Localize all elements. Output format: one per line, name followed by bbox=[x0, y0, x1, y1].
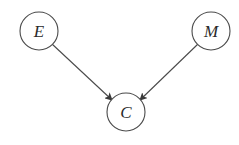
edge-e-to-c bbox=[52, 44, 112, 100]
node-e: E bbox=[20, 12, 58, 50]
node-c: C bbox=[107, 93, 145, 131]
node-m: M bbox=[192, 12, 230, 50]
node-e-label: E bbox=[33, 22, 45, 41]
edge-m-to-c bbox=[140, 44, 198, 100]
causal-diagram: E M C bbox=[0, 0, 239, 145]
node-c-label: C bbox=[120, 103, 132, 122]
node-m-label: M bbox=[203, 22, 219, 41]
